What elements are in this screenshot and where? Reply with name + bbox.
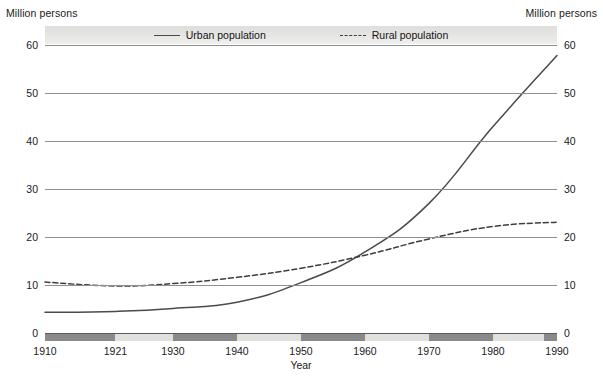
y-axis-tick-right-10: 10: [564, 280, 576, 291]
x-axis-title: Year: [290, 359, 311, 371]
y-axis-tick-left-20: 20: [26, 232, 38, 243]
y-axis-tick-right-40: 40: [564, 136, 576, 147]
x-axis-tick-1960: 1960: [353, 345, 376, 357]
y-axis-unit-label-left: Million persons: [6, 7, 78, 19]
gridline-60: [45, 45, 557, 46]
y-axis-tick-left-50: 50: [26, 88, 38, 99]
gridline-10: [45, 285, 557, 286]
y-axis-tick-left-0: 0: [32, 328, 38, 339]
y-axis-tick-right-50: 50: [564, 88, 576, 99]
y-axis-tick-right-20: 20: [564, 232, 576, 243]
x-axis-tick-1921: 1921: [104, 345, 127, 357]
y-axis-tick-right-0: 0: [564, 328, 570, 339]
x-axis-band-ruler: [45, 334, 557, 341]
y-axis-tick-left-10: 10: [26, 280, 38, 291]
legend-background-strip: [45, 26, 557, 44]
x-axis-tick-1990: 1990: [545, 345, 568, 357]
x-axis-tick-1970: 1970: [417, 345, 440, 357]
gridline-40: [45, 141, 557, 142]
series-line-urban-population: [45, 56, 557, 313]
y-axis-tick-left-30: 30: [26, 184, 38, 195]
x-axis-tick-1940: 1940: [225, 345, 248, 357]
gridline-50: [45, 93, 557, 94]
population-line-chart: Million persons Million persons Urban po…: [0, 0, 603, 377]
axis-band-segment-1988-1990: [544, 334, 557, 341]
x-axis-tick-1930: 1930: [161, 345, 184, 357]
y-axis-unit-label-right: Million persons: [525, 7, 597, 19]
axis-band-segment-1930-1940: [173, 334, 237, 341]
axis-band-segment-1970-1980: [429, 334, 493, 341]
axis-band-segment-1910-1921: [45, 334, 115, 341]
gridline-20: [45, 237, 557, 238]
y-axis-tick-right-60: 60: [564, 40, 576, 51]
plot-area: 00101020203030404050506060: [45, 45, 557, 333]
gridline-30: [45, 189, 557, 190]
y-axis-tick-right-30: 30: [564, 184, 576, 195]
axis-band-segment-1950-1960: [301, 334, 365, 341]
y-axis-tick-left-60: 60: [26, 40, 38, 51]
x-axis-tick-1980: 1980: [481, 345, 504, 357]
y-axis-tick-left-40: 40: [26, 136, 38, 147]
x-axis-tick-1910: 1910: [33, 345, 56, 357]
x-axis-tick-1950: 1950: [289, 345, 312, 357]
series-line-rural-population: [45, 222, 557, 286]
